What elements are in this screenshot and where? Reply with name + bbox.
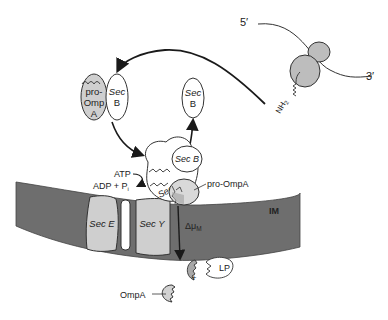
atp-label: ATP bbox=[114, 169, 131, 179]
ribosome: NH2 bbox=[274, 42, 330, 116]
nh2-label: NH2 bbox=[274, 97, 290, 115]
svg-text:Sec E: Sec E bbox=[89, 218, 115, 229]
svg-text:pro-: pro- bbox=[86, 86, 103, 97]
svg-text:Sec Y: Sec Y bbox=[139, 218, 165, 229]
atp-hydrolysis: ATP ADP + Pi bbox=[93, 169, 143, 192]
secy-protein: Sec Y bbox=[136, 199, 170, 256]
plus-sign: + bbox=[191, 273, 196, 283]
translocation-diagram: 5′ 3′ NH2 pro- Omp A Sec B Sec B IM bbox=[0, 0, 388, 320]
sece-protein: Sec E bbox=[86, 196, 118, 252]
proompa-bound-label: pro-OmpA bbox=[207, 179, 249, 189]
svg-text:A: A bbox=[91, 108, 98, 119]
proompa-secb-complex: pro- Omp A Sec B bbox=[81, 74, 128, 120]
lp-label: LP bbox=[219, 263, 230, 273]
mature-ompa: OmpA bbox=[120, 285, 175, 302]
ompa-label: OmpA bbox=[120, 290, 146, 300]
svg-text:Sec: Sec bbox=[109, 86, 126, 97]
svg-text:Sec: Sec bbox=[185, 87, 202, 98]
three-prime-label: 3′ bbox=[366, 70, 374, 82]
five-prime-label: 5′ bbox=[240, 16, 248, 28]
translocase-complex: Sec B Sec A pro-OmpA bbox=[145, 137, 248, 205]
svg-text:B: B bbox=[114, 97, 120, 108]
leader-peptidase: LP bbox=[206, 257, 233, 278]
membrane-pore bbox=[121, 200, 130, 250]
secb-bound-label: Sec B bbox=[175, 154, 199, 164]
svg-text:Omp: Omp bbox=[84, 97, 105, 108]
adp-label: ADP + Pi bbox=[93, 181, 129, 192]
im-label: IM bbox=[269, 206, 279, 216]
arrow-complex-to-translocase bbox=[112, 122, 142, 155]
secb-released: Sec B bbox=[182, 78, 204, 118]
svg-text:B: B bbox=[190, 98, 196, 109]
